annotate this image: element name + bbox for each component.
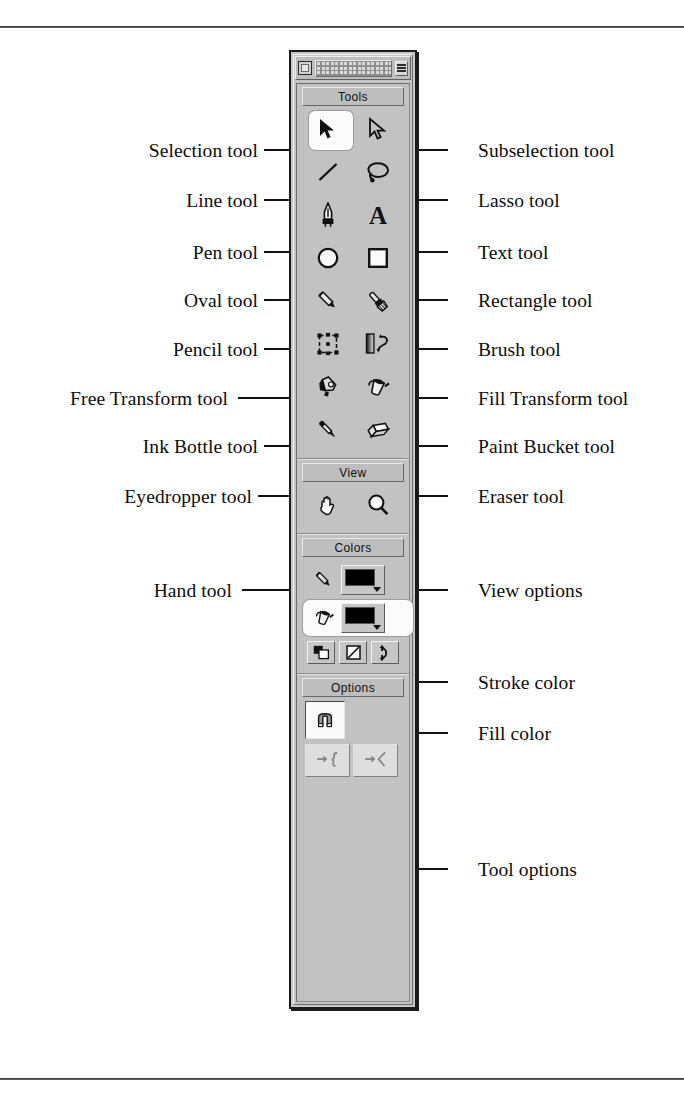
callout-stroke-color: Stroke color xyxy=(478,673,575,693)
stroke-color-swatch[interactable] xyxy=(341,565,385,595)
tool-fill-transform[interactable] xyxy=(353,324,403,367)
tool-text[interactable]: A xyxy=(353,195,403,238)
tool-brush[interactable] xyxy=(353,281,403,324)
callout-oval-tool: Oval tool xyxy=(0,291,258,311)
callout-tool-options: Tool options xyxy=(478,860,577,880)
rectangle-icon xyxy=(366,246,390,274)
tool-eraser[interactable] xyxy=(353,410,403,453)
tools-panel-window[interactable]: Tools xyxy=(289,50,417,1009)
colors-area xyxy=(297,557,409,670)
callout-ink-bottle-tool: Ink Bottle tool xyxy=(0,437,258,457)
line-icon xyxy=(316,160,340,188)
chevron-down-icon xyxy=(373,587,381,592)
callout-text-tool: Text tool xyxy=(478,243,548,263)
arrow-selection-icon xyxy=(317,117,339,145)
view-grid xyxy=(297,482,409,530)
section-divider xyxy=(297,673,409,675)
eyedropper-icon xyxy=(315,417,341,447)
svg-text:A: A xyxy=(369,202,387,228)
arrow-subselection-icon xyxy=(367,117,389,145)
pencil-icon xyxy=(315,288,341,318)
section-divider xyxy=(297,533,409,535)
free-transform-icon xyxy=(315,331,341,361)
lasso-icon xyxy=(365,160,391,188)
panel-menu-icon[interactable] xyxy=(395,61,408,76)
section-header-colors: Colors xyxy=(302,538,404,557)
callout-eyedropper-tool: Eyedropper tool xyxy=(0,487,252,507)
section-divider xyxy=(297,458,409,460)
option-straighten[interactable] xyxy=(353,744,398,777)
paint-bucket-icon xyxy=(307,607,341,629)
tool-pencil[interactable] xyxy=(303,281,353,324)
tool-selection[interactable] xyxy=(303,109,353,152)
tool-hand[interactable] xyxy=(303,485,353,528)
tool-line[interactable] xyxy=(303,152,353,195)
straighten-curve-icon xyxy=(363,749,389,773)
callout-free-transform-tool: Free Transform tool xyxy=(0,389,228,409)
option-extra-buttons xyxy=(305,744,401,777)
smooth-curve-icon xyxy=(315,749,341,773)
callout-subselection-tool: Subselection tool xyxy=(478,141,615,161)
section-header-view: View xyxy=(302,463,404,482)
callout-fill-color: Fill color xyxy=(478,724,551,744)
tool-oval[interactable] xyxy=(303,238,353,281)
callout-view-options: View options xyxy=(478,581,583,601)
tool-rectangle[interactable] xyxy=(353,238,403,281)
fill-color-row[interactable] xyxy=(305,599,401,637)
fill-transform-icon xyxy=(364,331,392,361)
callout-pencil-tool: Pencil tool xyxy=(0,340,258,360)
page-rule-bottom xyxy=(0,1078,684,1080)
window-titlebar[interactable] xyxy=(295,56,411,80)
hand-icon xyxy=(315,492,341,522)
option-smooth[interactable] xyxy=(305,744,350,777)
magnet-snap-icon xyxy=(314,707,336,733)
callout-selection-tool: Selection tool xyxy=(0,141,258,161)
tool-lasso[interactable] xyxy=(353,152,403,195)
tool-free-transform[interactable] xyxy=(303,324,353,367)
callout-fill-transform-tool: Fill Transform tool xyxy=(478,389,628,409)
callout-paint-bucket-tool: Paint Bucket tool xyxy=(478,437,615,457)
color-mini-buttons xyxy=(305,641,401,664)
oval-icon xyxy=(316,246,340,274)
tool-eyedropper[interactable] xyxy=(303,410,353,453)
option-snap-to-objects[interactable] xyxy=(305,701,345,739)
panel-body: Tools xyxy=(296,83,410,1002)
titlebar-drag-grip[interactable] xyxy=(315,60,392,77)
tool-ink-bottle[interactable] xyxy=(303,367,353,410)
callout-line-tool: Line tool xyxy=(0,191,258,211)
default-colors-icon[interactable] xyxy=(307,641,335,664)
page-rule-top xyxy=(0,26,684,28)
section-header-tools: Tools xyxy=(302,87,404,106)
tool-view-options[interactable] xyxy=(353,485,403,528)
fill-color-swatch[interactable] xyxy=(341,603,385,633)
callout-pen-tool: Pen tool xyxy=(0,243,258,263)
text-a-icon: A xyxy=(366,202,390,232)
swap-colors-icon[interactable] xyxy=(371,641,399,664)
eraser-icon xyxy=(364,418,392,446)
callout-brush-tool: Brush tool xyxy=(478,340,561,360)
callout-eraser-tool: Eraser tool xyxy=(478,487,564,507)
callout-hand-tool: Hand tool xyxy=(0,581,232,601)
pen-nib-icon xyxy=(317,202,339,232)
tool-paint-bucket[interactable] xyxy=(353,367,403,410)
brush-icon xyxy=(365,288,391,318)
close-box-icon[interactable] xyxy=(298,61,312,75)
options-area xyxy=(297,697,409,781)
pencil-icon xyxy=(307,569,341,591)
callout-rectangle-tool: Rectangle tool xyxy=(478,291,593,311)
tools-grid: A xyxy=(297,106,409,455)
tool-pen[interactable] xyxy=(303,195,353,238)
chevron-down-icon xyxy=(373,625,381,630)
no-color-icon[interactable] xyxy=(339,641,367,664)
magnifier-icon xyxy=(365,492,391,522)
ink-bottle-icon xyxy=(314,374,342,404)
section-header-options: Options xyxy=(302,678,404,697)
paint-bucket-icon xyxy=(364,374,392,404)
stroke-color-row[interactable] xyxy=(305,561,401,599)
tool-subselection[interactable] xyxy=(353,109,403,152)
callout-lasso-tool: Lasso tool xyxy=(478,191,560,211)
